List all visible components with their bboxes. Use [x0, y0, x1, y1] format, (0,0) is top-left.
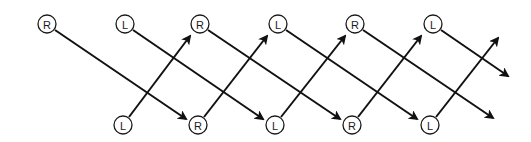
- node-label: L: [122, 19, 128, 31]
- node-label: R: [43, 19, 51, 31]
- node-label: L: [275, 19, 281, 31]
- node-l-t1: L: [116, 15, 134, 33]
- node-label: R: [348, 120, 356, 132]
- node-label: L: [120, 120, 126, 132]
- node-label: R: [194, 120, 202, 132]
- arrow-down-right: [363, 30, 493, 118]
- node-l-b4: L: [421, 116, 439, 134]
- arrow-up-right: [436, 38, 498, 117]
- node-group: RLRLRLLRLRL: [38, 15, 442, 134]
- node-label: R: [196, 19, 204, 31]
- node-l-b0: L: [114, 116, 132, 134]
- node-r-t4: R: [346, 15, 364, 33]
- arrow-down-right: [133, 30, 263, 119]
- node-l-b2: L: [266, 116, 284, 134]
- rl-chain-diagram: RLRLRLLRLRL: [0, 0, 531, 142]
- arrow-down-right: [55, 30, 186, 119]
- arrow-group: [55, 30, 508, 119]
- node-label: L: [430, 19, 436, 31]
- node-label: L: [272, 120, 278, 132]
- node-label: L: [427, 120, 433, 132]
- node-r-b3: R: [343, 116, 361, 134]
- node-r-t0: R: [38, 15, 56, 33]
- node-l-t5: L: [424, 15, 442, 33]
- node-r-b1: R: [189, 116, 207, 134]
- arrow-down-right: [286, 30, 417, 119]
- node-r-t2: R: [191, 15, 209, 33]
- node-label: R: [351, 19, 359, 31]
- node-l-t3: L: [269, 15, 287, 33]
- arrow-down-right: [208, 30, 340, 119]
